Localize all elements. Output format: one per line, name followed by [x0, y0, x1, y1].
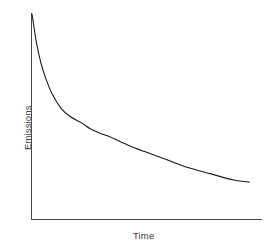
- chart-plot-area: [0, 0, 270, 251]
- y-axis-label: Emissions: [23, 105, 33, 150]
- x-axis-label: Time: [133, 231, 154, 241]
- emissions-over-time-chart: Emissions Time: [0, 0, 270, 251]
- emissions-decay-curve: [32, 14, 249, 182]
